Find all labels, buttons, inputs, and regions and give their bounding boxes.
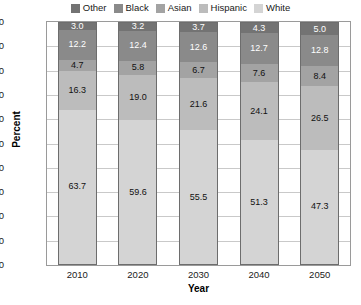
stacked-bar[interactable]: 5.012.88.426.547.3 xyxy=(300,22,339,265)
bar-segment-other[interactable]: 3.0 xyxy=(59,23,96,30)
y-tick-label: 0 xyxy=(0,260,4,270)
bar-segment-value: 12.6 xyxy=(190,43,208,52)
bar-segment-hispanic[interactable]: 19.0 xyxy=(119,75,156,121)
legend-item-label: Black xyxy=(126,3,149,13)
stacked-bar[interactable]: 3.212.45.819.059.6 xyxy=(118,22,157,265)
bar-group[interactable]: 4.312.77.624.151.3 xyxy=(240,22,279,265)
legend-swatch-icon xyxy=(114,4,123,13)
bar-segment-value: 21.6 xyxy=(190,100,208,109)
legend-swatch-icon xyxy=(254,4,263,13)
legend-item-label: Asian xyxy=(168,3,192,13)
bar-group[interactable]: 3.712.66.721.655.5 xyxy=(179,22,218,265)
bar-segment-value: 12.8 xyxy=(311,46,329,55)
y-tick-label: 10 xyxy=(0,236,4,246)
bar-segment-white[interactable]: 47.3 xyxy=(301,150,338,264)
y-tick-label: 40 xyxy=(0,163,4,173)
bar-segment-asian[interactable]: 5.8 xyxy=(119,61,156,75)
bar-segment-black[interactable]: 12.6 xyxy=(180,32,217,62)
bar-segment-hispanic[interactable]: 21.6 xyxy=(180,78,217,130)
bar-segment-value: 3.2 xyxy=(132,23,145,31)
chart-legend: OtherBlackAsianHispanicWhite xyxy=(0,1,361,15)
bar-segment-value: 7.6 xyxy=(253,69,266,78)
bar-segment-asian[interactable]: 4.7 xyxy=(59,60,96,71)
bar-segment-other[interactable]: 3.2 xyxy=(119,23,156,31)
bar-segment-value: 26.5 xyxy=(311,114,329,123)
bar-group[interactable]: 3.212.45.819.059.6 xyxy=(118,22,157,265)
bar-segment-value: 47.3 xyxy=(311,202,329,211)
x-tick-label: 2030 xyxy=(169,270,229,280)
bar-segment-hispanic[interactable]: 26.5 xyxy=(301,86,338,150)
bar-segment-value: 12.7 xyxy=(250,44,268,53)
stacked-bar[interactable]: 3.712.66.721.655.5 xyxy=(179,22,218,265)
x-tick-label: 2040 xyxy=(229,270,289,280)
legend-item-asian[interactable]: Asian xyxy=(156,3,192,13)
bar-segment-value: 19.0 xyxy=(129,93,147,102)
bar-segment-hispanic[interactable]: 24.1 xyxy=(241,82,278,140)
bar-segment-black[interactable]: 12.4 xyxy=(119,31,156,61)
bar-segment-value: 3.0 xyxy=(71,23,84,30)
bar-segment-other[interactable]: 5.0 xyxy=(301,23,338,35)
legend-item-label: Hispanic xyxy=(211,3,247,13)
legend-item-white[interactable]: White xyxy=(254,3,290,13)
x-tick-label: 2010 xyxy=(47,270,107,280)
legend-item-label: White xyxy=(266,3,290,13)
bar-segment-white[interactable]: 63.7 xyxy=(59,110,96,264)
bar-segment-value: 4.7 xyxy=(71,61,84,70)
bar-segment-value: 16.3 xyxy=(69,86,87,95)
bar-segment-white[interactable]: 59.6 xyxy=(119,120,156,264)
y-tick-label: 20 xyxy=(0,211,4,221)
stacked-bar-chart: OtherBlackAsianHispanicWhite Percent 010… xyxy=(0,0,361,305)
x-axis-title: Year xyxy=(46,283,351,294)
bar-segment-white[interactable]: 55.5 xyxy=(180,130,217,264)
bar-segment-value: 5.8 xyxy=(132,63,145,72)
legend-item-label: Other xyxy=(83,3,107,13)
bar-segment-white[interactable]: 51.3 xyxy=(241,140,278,264)
stacked-bar[interactable]: 3.012.24.716.363.7 xyxy=(58,22,97,265)
y-tick-label: 80 xyxy=(0,66,4,76)
x-tick-label: 2020 xyxy=(108,270,168,280)
y-tick-label: 70 xyxy=(0,90,4,100)
legend-item-other[interactable]: Other xyxy=(71,3,107,13)
bar-segment-value: 12.2 xyxy=(69,40,87,49)
y-tick-label: 90 xyxy=(0,41,4,51)
y-axis-title: Percent xyxy=(11,100,22,160)
bar-segment-value: 24.1 xyxy=(250,107,268,116)
legend-item-hispanic[interactable]: Hispanic xyxy=(199,3,247,13)
bar-segment-black[interactable]: 12.8 xyxy=(301,35,338,66)
bar-segment-other[interactable]: 3.7 xyxy=(180,23,217,32)
bar-segment-hispanic[interactable]: 16.3 xyxy=(59,71,96,110)
bar-segment-asian[interactable]: 6.7 xyxy=(180,62,217,78)
bar-series-container: 3.012.24.716.363.73.212.45.819.059.63.71… xyxy=(47,22,350,265)
y-tick-label: 60 xyxy=(0,114,4,124)
y-tick-label: 30 xyxy=(0,187,4,197)
legend-swatch-icon xyxy=(156,4,165,13)
bar-segment-value: 63.7 xyxy=(69,182,87,191)
bar-group[interactable]: 5.012.88.426.547.3 xyxy=(300,22,339,265)
bar-segment-asian[interactable]: 8.4 xyxy=(301,66,338,86)
y-tick-label: 50 xyxy=(0,139,4,149)
bar-segment-value: 8.4 xyxy=(313,72,326,81)
bar-segment-value: 55.5 xyxy=(190,193,208,202)
bar-segment-other[interactable]: 4.3 xyxy=(241,23,278,33)
bar-segment-value: 51.3 xyxy=(250,198,268,207)
bar-group[interactable]: 3.012.24.716.363.7 xyxy=(58,22,97,265)
legend-item-black[interactable]: Black xyxy=(114,3,149,13)
bar-segment-black[interactable]: 12.7 xyxy=(241,33,278,64)
stacked-bar[interactable]: 4.312.77.624.151.3 xyxy=(240,22,279,265)
y-tick-label: 100 xyxy=(0,17,4,27)
legend-swatch-icon xyxy=(199,4,208,13)
bar-segment-value: 59.6 xyxy=(129,188,147,197)
bar-segment-value: 5.0 xyxy=(313,25,326,34)
bar-segment-value: 6.7 xyxy=(192,66,205,75)
bar-segment-value: 4.3 xyxy=(253,24,266,33)
x-tick-label: 2050 xyxy=(290,270,350,280)
bar-segment-asian[interactable]: 7.6 xyxy=(241,64,278,82)
bar-segment-value: 3.7 xyxy=(192,23,205,32)
bar-segment-value: 12.4 xyxy=(129,41,147,50)
bar-segment-black[interactable]: 12.2 xyxy=(59,30,96,59)
legend-swatch-icon xyxy=(71,4,80,13)
